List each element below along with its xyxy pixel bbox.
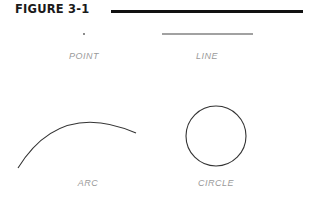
circle-shape [186,106,246,166]
point-label: POINT [54,51,114,61]
point-shape [83,33,85,35]
circle-label: CIRCLE [186,178,246,188]
geometry-canvas [0,0,309,215]
arc-shape [18,122,136,168]
line-label: LINE [177,51,237,61]
arc-label: ARC [58,178,118,188]
